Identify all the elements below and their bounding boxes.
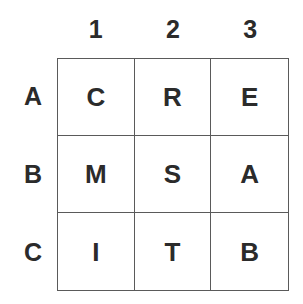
- row-header-c: C: [12, 213, 54, 291]
- letter-grid-figure: 1 2 3 A B C C R E M S A I T B: [0, 0, 303, 304]
- column-header-3: 3: [212, 12, 289, 46]
- grid-cell-b3[interactable]: A: [211, 136, 288, 213]
- column-header-1: 1: [57, 12, 134, 46]
- grid-cell-b1[interactable]: M: [58, 136, 135, 213]
- column-header-row: 1 2 3: [57, 12, 289, 46]
- grid-cell-a2[interactable]: R: [135, 59, 212, 136]
- column-header-2: 2: [134, 12, 211, 46]
- grid-cell-c3[interactable]: B: [211, 213, 288, 290]
- grid-cell-c1[interactable]: I: [58, 213, 135, 290]
- grid-cell-a1[interactable]: C: [58, 59, 135, 136]
- grid-cell-a3[interactable]: E: [211, 59, 288, 136]
- letter-grid: C R E M S A I T B: [57, 58, 289, 291]
- grid-cell-c2[interactable]: T: [135, 213, 212, 290]
- row-header-b: B: [12, 136, 54, 214]
- row-header-a: A: [12, 58, 54, 136]
- grid-cell-b2[interactable]: S: [135, 136, 212, 213]
- row-header-column: A B C: [12, 58, 54, 291]
